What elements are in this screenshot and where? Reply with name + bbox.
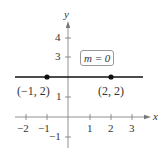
point-neg1-2 [44,74,49,79]
x-axis-arrow-icon [144,115,151,119]
point-2-2 [108,74,113,79]
x-tick-2: 2 [108,123,114,134]
x-axis-label: x [153,111,158,122]
y-axis-arrow-icon [66,21,70,28]
x-tick-neg2: −2 [17,123,29,134]
y-tick-4: 4 [55,32,61,43]
point-label-neg1-2: (−1, 2) [17,85,50,97]
x-tick-neg1: −1 [38,123,50,134]
y-tick-3: 3 [55,51,61,62]
y-tick-1: 1 [56,91,62,102]
point-label-2-2: (2, 2) [98,85,124,97]
y-axis-label: y [64,9,69,20]
slope-annotation: m = 0 [80,50,114,66]
y-tick-neg1: −1 [49,131,61,142]
x-tick-3: 3 [129,123,135,134]
x-tick-1: 1 [87,123,93,134]
